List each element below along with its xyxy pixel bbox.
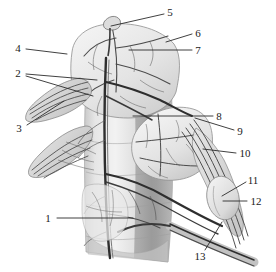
label-9: 9	[237, 126, 243, 137]
label-10: 10	[240, 148, 251, 159]
left-fan-lower-shape	[28, 126, 92, 178]
anatomical-figure: 12345678910111213	[0, 0, 276, 272]
label-7: 7	[195, 45, 201, 56]
anatomy-illustration	[0, 0, 276, 272]
label-3: 3	[16, 123, 22, 134]
label-11: 11	[248, 175, 259, 186]
cord-line-2	[170, 230, 254, 266]
label-5: 5	[167, 7, 173, 18]
label-1: 1	[45, 213, 51, 224]
left-nerve-fan-upper	[26, 78, 92, 122]
upper-tissue-mass	[71, 24, 180, 118]
label-6: 6	[195, 28, 201, 39]
label-8: 8	[216, 111, 222, 122]
label-4: 4	[15, 43, 21, 54]
label-13: 13	[195, 251, 206, 262]
label-12: 12	[251, 196, 262, 207]
superior-cut-end	[103, 16, 120, 30]
label-2: 2	[15, 68, 21, 79]
